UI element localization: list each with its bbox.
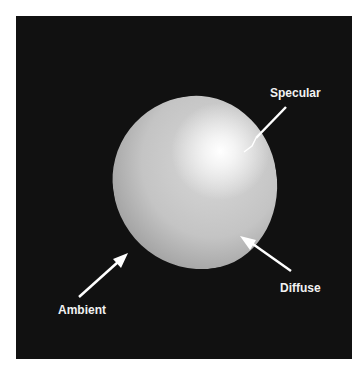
- specular-arrow-icon: [244, 107, 286, 152]
- diffuse-arrow-icon: [240, 236, 291, 271]
- specular-label: Specular: [270, 86, 321, 100]
- diffuse-label: Diffuse: [280, 281, 321, 295]
- ambient-arrow-icon: [79, 253, 128, 297]
- ambient-label: Ambient: [58, 303, 106, 317]
- arrows-layer: [0, 0, 364, 370]
